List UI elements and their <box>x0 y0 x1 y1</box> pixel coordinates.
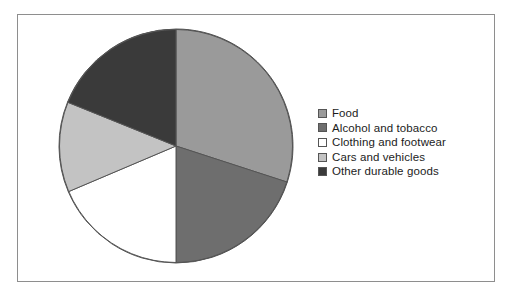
legend-label-food: Food <box>332 106 359 121</box>
legend-item-other-durable-goods[interactable]: Other durable goods <box>318 164 488 179</box>
legend-label-alcohol-and-tobacco: Alcohol and tobacco <box>332 121 437 136</box>
legend-label-clothing-and-footwear: Clothing and footwear <box>332 135 446 150</box>
legend-swatch-alcohol-and-tobacco <box>318 123 327 132</box>
legend-swatch-cars-and-vehicles <box>318 153 327 162</box>
pie-svg <box>58 28 294 264</box>
legend-swatch-food <box>318 109 327 118</box>
chart-frame: Food Alcohol and tobacco Clothing and fo… <box>17 14 495 282</box>
legend-swatch-clothing-and-footwear <box>318 138 327 147</box>
legend-label-cars-and-vehicles: Cars and vehicles <box>332 150 425 165</box>
chart-legend: Food Alcohol and tobacco Clothing and fo… <box>318 106 488 179</box>
pie-chart <box>58 28 294 264</box>
legend-swatch-other-durable-goods <box>318 167 327 176</box>
legend-item-clothing-and-footwear[interactable]: Clothing and footwear <box>318 135 488 150</box>
legend-item-cars-and-vehicles[interactable]: Cars and vehicles <box>318 150 488 165</box>
legend-item-food[interactable]: Food <box>318 106 488 121</box>
legend-label-other-durable-goods: Other durable goods <box>332 164 439 179</box>
legend-item-alcohol-and-tobacco[interactable]: Alcohol and tobacco <box>318 121 488 136</box>
